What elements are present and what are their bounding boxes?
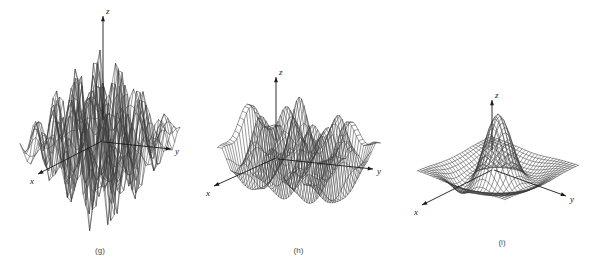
x-axis-label-g: x [29, 176, 34, 186]
y-axis-i-arrowhead [560, 192, 566, 196]
mesh-group [218, 97, 381, 203]
z-axis-h-arrowhead [274, 77, 278, 82]
figure-root: zyx zyx zyx (g) (h) (i) [0, 0, 606, 279]
panel-caption-i: (i) [398, 238, 606, 247]
z-axis-label-i: z [494, 90, 499, 100]
z-axis-label-g: z [105, 6, 110, 16]
z-axis-g-arrowhead [101, 16, 105, 21]
surface-plot-panel-g: zyx [0, 0, 200, 279]
mesh-group [20, 50, 180, 231]
x-axis-g-arrowhead [38, 170, 44, 174]
panel-caption-g: (g) [0, 246, 200, 255]
mesh-group [418, 114, 579, 200]
y-axis-h-arrowhead [368, 166, 373, 170]
surface-plot-panel-h: zyx [196, 0, 401, 279]
x-axis-h-arrowhead [214, 182, 220, 186]
surface-plot-h-canvas: zyx [196, 0, 401, 279]
x-axis-i-arrowhead [422, 201, 428, 205]
x-axis-label-h: x [205, 188, 210, 198]
z-axis-label-h: z [278, 67, 283, 77]
y-axis-label-g: y [174, 146, 179, 156]
panel-caption-h: (h) [196, 246, 401, 255]
z-axis-i-arrowhead [490, 100, 494, 105]
mesh-line [468, 127, 541, 194]
y-axis-label-h: y [376, 166, 381, 176]
surface-plot-g-canvas: zyx [0, 0, 200, 279]
y-axis-label-i: y [569, 194, 574, 204]
x-axis-label-i: x [413, 207, 418, 217]
